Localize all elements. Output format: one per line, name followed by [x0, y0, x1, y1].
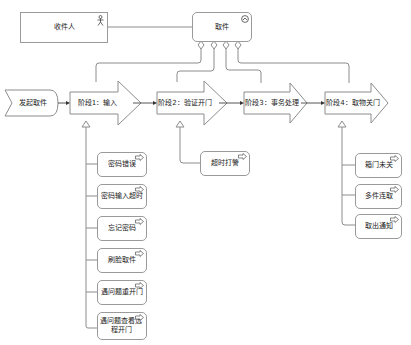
arrow-right-icon: [135, 250, 144, 257]
exception-box[interactable]: 箱门未关: [355, 153, 402, 178]
object-box[interactable]: 取件: [192, 12, 252, 42]
arrow-right-icon: [135, 218, 144, 225]
aggregation-diamond-4: [235, 41, 241, 49]
aggregation-line-stage3: [226, 48, 261, 83]
stage2-label: 阶段2：验证开门: [157, 92, 213, 114]
start-event-label: 发起取件: [10, 90, 56, 116]
aggregation-diamond-2: [211, 41, 217, 49]
exception-box[interactable]: 多件连取: [355, 184, 402, 209]
actor-icon: [97, 15, 104, 26]
aggregation-diamond-1: [198, 41, 204, 49]
arrow-right-icon: [135, 314, 144, 321]
exception-box[interactable]: 密码错误: [97, 152, 147, 177]
aggregation-line-stage1: [96, 48, 201, 82]
stage2-exception-trunk: [180, 127, 200, 163]
stage3-label: 阶段3：事务处理: [244, 92, 300, 114]
exception-box[interactable]: 遇问题查看远程开门: [97, 312, 147, 340]
actor-label: 收件人: [21, 13, 107, 42]
exception-box[interactable]: 取出通知: [355, 214, 402, 239]
stage2-exception-triangle: [176, 121, 184, 127]
exception-box[interactable]: 密码输入超时: [97, 184, 147, 209]
arrow-right-icon: [390, 216, 399, 223]
aggregation-line-stage2: [177, 48, 214, 82]
stage4-exception-triangle: [338, 121, 346, 127]
exception-box[interactable]: 忘记密码: [97, 216, 147, 241]
arrow-right-icon: [390, 155, 399, 162]
exception-box[interactable]: 遇问题重开门: [97, 280, 147, 305]
stage1-label: 阶段1：输入: [70, 92, 125, 114]
aggregation-line-stage4: [238, 48, 349, 83]
function-chevron-icon: [241, 15, 249, 23]
arrow-right-icon: [135, 186, 144, 193]
process-diagram: 收件人 取件 发起取件 阶段1：输入 阶段2：验证开门 阶段3：事务处理 阶段4…: [0, 0, 411, 345]
exception-box[interactable]: 刷脸取件: [97, 248, 147, 273]
arrow-right-icon: [390, 186, 399, 193]
stage1-exception-triangle: [82, 121, 90, 127]
exception-box[interactable]: 超时打警: [200, 151, 250, 176]
arrow-right-icon: [238, 153, 247, 160]
actor-box[interactable]: 收件人: [20, 12, 108, 43]
arrow-right-icon: [135, 282, 144, 289]
stage4-label: 阶段4：取物关门: [325, 92, 381, 114]
stage4-exception-trunk: [342, 127, 355, 225]
arrow-right-icon: [135, 154, 144, 161]
aggregation-diamond-3: [223, 41, 229, 49]
